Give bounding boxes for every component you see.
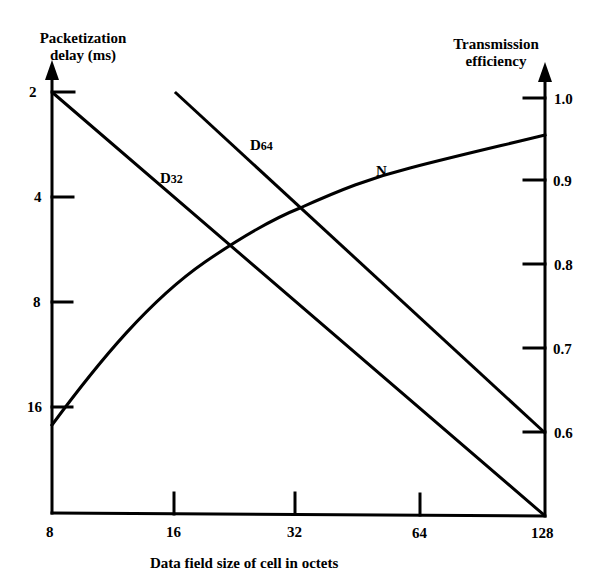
series-label-d64-sub: 64	[261, 139, 273, 153]
x-tick-label-32: 32	[287, 524, 302, 540]
x-tick-label-64: 64	[412, 525, 427, 541]
series-label-d64: D64	[250, 137, 273, 154]
series-d32-line	[53, 93, 544, 515]
series-label-n: N	[376, 163, 387, 179]
left-tick-label-8: 8	[33, 294, 41, 310]
series-n-curve	[52, 135, 545, 425]
series-d64-line	[176, 93, 544, 432]
right-axis-arrow-icon	[538, 62, 552, 82]
chart-canvas	[0, 0, 602, 584]
series-label-d64-main: D	[250, 137, 261, 153]
x-tick-label-8: 8	[46, 524, 54, 540]
series-label-d32: D32	[160, 170, 183, 187]
left-tick-label-2: 2	[29, 84, 37, 100]
right-tick-label-0-8: 0.8	[554, 257, 573, 273]
right-tick-label-1-0: 1.0	[554, 91, 573, 107]
x-tick-label-128: 128	[531, 525, 554, 541]
series-label-d32-sub: 32	[171, 172, 183, 186]
right-tick-label-0-9: 0.9	[553, 173, 572, 189]
x-axis-line	[52, 513, 545, 516]
left-axis-arrow-icon	[45, 60, 59, 80]
right-tick-label-0-6: 0.6	[554, 425, 573, 441]
series-label-d32-main: D	[160, 170, 171, 186]
x-tick-label-16: 16	[166, 524, 181, 540]
left-tick-label-4: 4	[34, 189, 42, 205]
x-axis-title: Data field size of cell in octets	[150, 555, 338, 572]
left-tick-label-16: 16	[27, 399, 42, 415]
right-tick-label-0-7: 0.7	[553, 341, 572, 357]
